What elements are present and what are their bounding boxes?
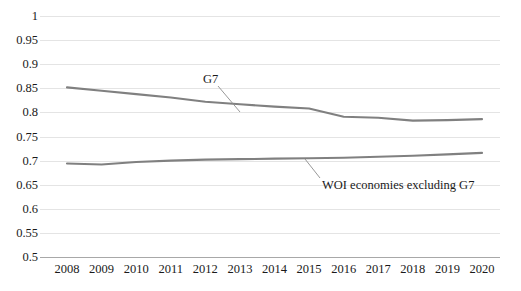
x-axis-tick-labels: 2008200920102011201220132014201520162017… <box>0 262 521 284</box>
leader-line-woi <box>305 159 320 178</box>
leader-line-g7 <box>218 86 240 112</box>
x-axis-tick-label: 2020 <box>459 262 505 277</box>
series-layer <box>0 0 521 291</box>
annotation-label-g7: G7 <box>203 72 218 87</box>
annotation-label-woi-excluding-g7: WOI economies excluding G7 <box>322 178 474 193</box>
line-chart: 10.950.90.850.80.750.70.650.60.550.5 G7 … <box>0 0 521 291</box>
series-line-woi-excluding-g7 <box>67 153 482 165</box>
series-line-g7 <box>67 87 482 120</box>
chart-screenshot: 10.950.90.850.80.750.70.650.60.550.5 G7 … <box>0 0 521 291</box>
